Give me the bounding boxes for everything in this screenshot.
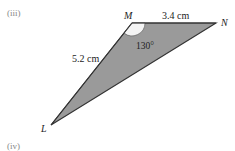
part-label-iii: (iii): [7, 8, 21, 18]
vertex-label-L: L: [40, 123, 47, 134]
triangle-LMN: [51, 23, 216, 125]
vertex-label-N: N: [220, 17, 229, 28]
side-label-LM: 5.2 cm: [72, 53, 99, 64]
triangle-diagram: (iii) M N L 3.4 cm 5.2 cm 130° (iv): [0, 0, 235, 151]
side-label-MN: 3.4 cm: [162, 10, 189, 21]
part-label-iv: (iv): [7, 141, 20, 151]
angle-label-M: 130°: [136, 41, 154, 51]
vertex-label-M: M: [123, 10, 133, 21]
